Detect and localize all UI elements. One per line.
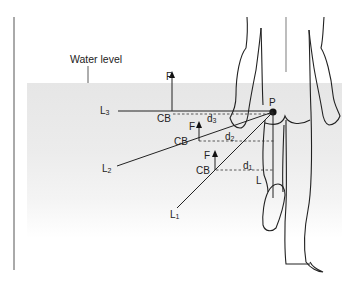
force-label-3: F (166, 72, 172, 82)
force-label-2: F (189, 122, 195, 132)
water-level-label: Water level (70, 54, 122, 65)
lever-L2 (117, 112, 273, 166)
cb-label-2: CB (174, 137, 188, 147)
cb-label-1: CB (196, 166, 210, 176)
arrowhead-icon (196, 121, 202, 128)
d1-label: d1 (243, 161, 252, 171)
d2-label: d2 (225, 132, 234, 142)
human-figure (230, 17, 340, 272)
cb-label-3: CB (157, 114, 171, 124)
lever-L2-label: L2 (102, 164, 111, 174)
lever-L3-label: L3 (100, 106, 109, 116)
lever-L-label: L (256, 176, 262, 186)
lever-L1-label: L1 (170, 210, 179, 220)
d3-label: d3 (207, 114, 216, 124)
pivot-label: P (269, 98, 276, 108)
force-label-1: F (204, 151, 210, 161)
diagram-canvas: Water level F L3 CB d3 P F CB d2 L2 F CB… (0, 0, 357, 283)
arrowhead-icon (212, 150, 218, 157)
